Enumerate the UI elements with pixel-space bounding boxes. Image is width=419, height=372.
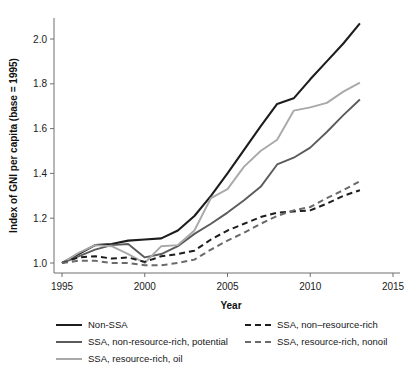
- line-chart-plot: 1.01.21.41.61.82.0 19952000200520102015 …: [0, 0, 419, 316]
- legend-item[interactable]: SSA, resource-rich, oil: [56, 350, 236, 367]
- x-tick-label: 2005: [216, 281, 239, 292]
- legend-line-swatch: [56, 354, 82, 364]
- y-tick-label: 2.0: [33, 34, 47, 45]
- y-tick-label: 1.8: [33, 78, 47, 89]
- y-tick-label: 1.6: [33, 123, 47, 134]
- legend-item-label: SSA, non-resource-rich, potential: [88, 336, 228, 347]
- legend-item[interactable]: Non-SSA: [56, 316, 236, 333]
- legend-column-right: SSA, non–resource-richSSA, resource-rich…: [245, 316, 419, 350]
- series-group: [62, 23, 360, 265]
- x-tick-label: 2000: [134, 281, 157, 292]
- legend-item-label: SSA, resource-rich, nonoil: [277, 336, 387, 347]
- legend-line-swatch: [245, 337, 271, 347]
- x-axis-tick-group: 19952000200520102015: [51, 273, 405, 292]
- legend-item-label: SSA, resource-rich, oil: [88, 353, 183, 364]
- x-tick-label: 2015: [382, 281, 405, 292]
- chart-legend: Non-SSASSA, non-resource-rich, potential…: [0, 316, 419, 372]
- legend-item-label: SSA, non–resource-rich: [277, 319, 378, 330]
- legend-item[interactable]: SSA, resource-rich, nonoil: [245, 333, 419, 350]
- series-line: [62, 99, 360, 263]
- legend-line-swatch: [56, 320, 82, 330]
- legend-item-label: Non-SSA: [88, 319, 128, 330]
- y-tick-label: 1.0: [33, 258, 47, 269]
- y-axis-title: Index of GNI per capita (base = 1995): [8, 58, 19, 233]
- y-tick-label: 1.4: [33, 168, 47, 179]
- legend-item[interactable]: SSA, non–resource-rich: [245, 316, 419, 333]
- chart-figure: 1.01.21.41.61.82.0 19952000200520102015 …: [0, 0, 419, 372]
- series-line: [62, 190, 360, 263]
- legend-column-left: Non-SSASSA, non-resource-rich, potential…: [56, 316, 236, 367]
- x-tick-label: 1995: [51, 281, 74, 292]
- legend-line-swatch: [56, 337, 82, 347]
- series-line: [62, 83, 360, 263]
- x-axis-title: Year: [220, 300, 241, 311]
- legend-item[interactable]: SSA, non-resource-rich, potential: [56, 333, 236, 350]
- x-tick-label: 2010: [299, 281, 322, 292]
- legend-line-swatch: [245, 320, 271, 330]
- y-tick-label: 1.2: [33, 213, 47, 224]
- y-axis-tick-group: 1.01.21.41.61.82.0: [33, 34, 54, 269]
